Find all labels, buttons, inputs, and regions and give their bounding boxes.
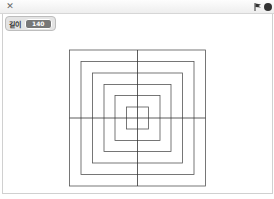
pen-drawing (0, 0, 274, 199)
